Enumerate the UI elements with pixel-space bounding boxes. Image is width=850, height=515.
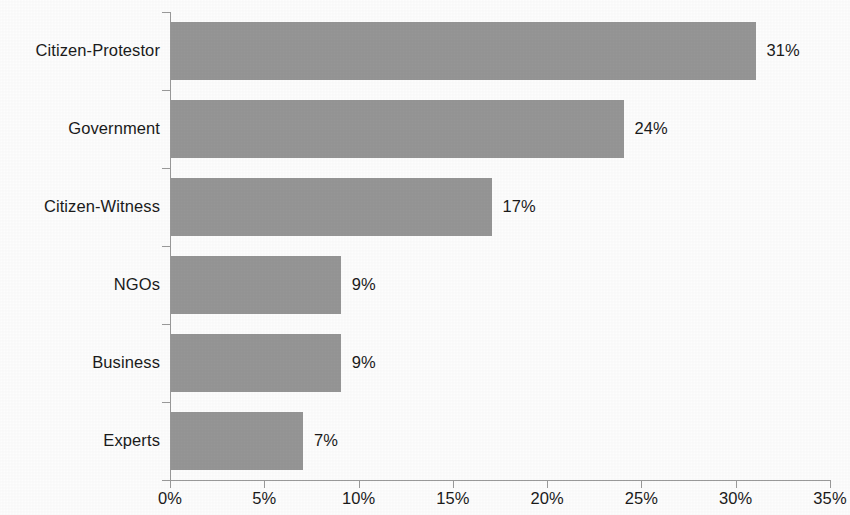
value-tick-label: 25%: [625, 489, 658, 508]
value-axis-line: [170, 480, 830, 481]
category-tick: [162, 324, 170, 325]
bar-ngos: [171, 256, 341, 314]
value-tick: [641, 480, 642, 488]
value-tick: [830, 480, 831, 488]
bar-business: [171, 334, 341, 392]
bar-value-label: 24%: [635, 119, 668, 138]
bar-chart: Citizen-ProtestorGovernmentCitizen-Witne…: [0, 0, 850, 515]
value-tick-label: 30%: [719, 489, 752, 508]
value-tick-label: 15%: [436, 489, 469, 508]
value-tick: [736, 480, 737, 488]
bar-value-label: 31%: [767, 41, 800, 60]
value-tick-label: 5%: [252, 489, 276, 508]
value-tick-label: 35%: [813, 489, 846, 508]
category-tick: [162, 402, 170, 403]
value-tick-label: 20%: [530, 489, 563, 508]
category-tick: [162, 480, 170, 481]
value-tick: [547, 480, 548, 488]
category-label: Government: [68, 119, 160, 138]
category-tick: [162, 12, 170, 13]
category-label: NGOs: [114, 275, 160, 294]
bar-value-label: 17%: [503, 197, 536, 216]
value-tick: [453, 480, 454, 488]
bar-citizen-protestor: [171, 22, 756, 80]
category-label: Citizen-Witness: [44, 197, 160, 216]
category-label: Business: [92, 353, 160, 372]
category-tick: [162, 246, 170, 247]
bar-government: [171, 100, 624, 158]
bar-experts: [171, 412, 303, 470]
category-tick: [162, 168, 170, 169]
bar-value-label: 9%: [352, 275, 376, 294]
value-tick: [170, 480, 171, 488]
bar-citizen-witness: [171, 178, 492, 236]
category-tick: [162, 90, 170, 91]
value-tick-label: 0%: [158, 489, 182, 508]
value-tick-label: 10%: [342, 489, 375, 508]
bar-value-label: 9%: [352, 353, 376, 372]
category-label: Experts: [103, 431, 160, 450]
value-tick: [359, 480, 360, 488]
bar-value-label: 7%: [314, 431, 338, 450]
category-label: Citizen-Protestor: [35, 41, 160, 60]
value-tick: [264, 480, 265, 488]
plot-area: Citizen-ProtestorGovernmentCitizen-Witne…: [0, 0, 850, 515]
category-axis-line: [170, 12, 171, 480]
